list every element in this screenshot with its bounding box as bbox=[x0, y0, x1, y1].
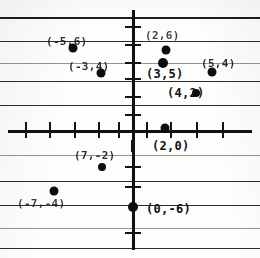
x-axis-tick bbox=[118, 122, 120, 138]
x-axis-tick bbox=[196, 122, 198, 138]
x-axis-tick bbox=[49, 122, 51, 138]
y-axis-tick bbox=[125, 166, 141, 168]
rule-line bbox=[0, 41, 260, 42]
point-label-7-neg2: (7,-2) bbox=[74, 150, 116, 161]
y-axis-tick bbox=[125, 232, 141, 234]
point-label-4-2: (4,2) bbox=[167, 87, 205, 99]
x-axis-tick bbox=[131, 140, 134, 152]
plot-point bbox=[128, 202, 138, 212]
x-axis-tick bbox=[25, 122, 27, 138]
y-axis-tick bbox=[125, 78, 141, 80]
rule-line bbox=[0, 105, 260, 106]
y-axis-tick bbox=[125, 44, 141, 46]
y-axis-tick bbox=[125, 114, 141, 116]
x-axis-tick bbox=[98, 122, 100, 138]
point-label-5-4: (5,4) bbox=[201, 58, 236, 69]
rule-line bbox=[0, 181, 260, 182]
rule-line bbox=[0, 155, 260, 156]
coordinate-plane-figure: (-5,6) (2,6) (-3,4) (3,5) (5,4) (4,2) (2… bbox=[0, 0, 260, 258]
x-axis-tick bbox=[222, 122, 224, 138]
point-label-neg3-4: (-3,4) bbox=[68, 61, 110, 72]
x-axis-tick bbox=[146, 122, 148, 138]
point-label-neg7-neg4: (-7,-4) bbox=[17, 198, 65, 209]
rule-line bbox=[0, 17, 260, 19]
x-axis-tick bbox=[170, 122, 172, 138]
point-label-2-0: (2,0) bbox=[152, 140, 190, 152]
point-label-neg5-6: (-5,6) bbox=[46, 36, 88, 47]
x-axis-tick bbox=[74, 122, 76, 138]
plot-point bbox=[162, 46, 171, 55]
x-axis bbox=[8, 130, 252, 133]
y-axis-tick bbox=[125, 62, 141, 64]
plot-point bbox=[50, 187, 59, 196]
rule-line bbox=[0, 81, 260, 82]
rule-line bbox=[0, 248, 260, 249]
plot-point bbox=[98, 163, 106, 171]
plot-point bbox=[161, 124, 170, 133]
point-label-3-5: (3,5) bbox=[146, 68, 184, 80]
y-axis-tick bbox=[125, 26, 141, 28]
paper-texture bbox=[0, 0, 260, 258]
point-label-0-neg6: (0,-6) bbox=[146, 203, 191, 215]
y-axis-tick bbox=[125, 186, 141, 188]
rule-line bbox=[0, 228, 260, 229]
point-label-2-6: (2,6) bbox=[145, 30, 180, 41]
y-axis-tick bbox=[125, 96, 141, 98]
